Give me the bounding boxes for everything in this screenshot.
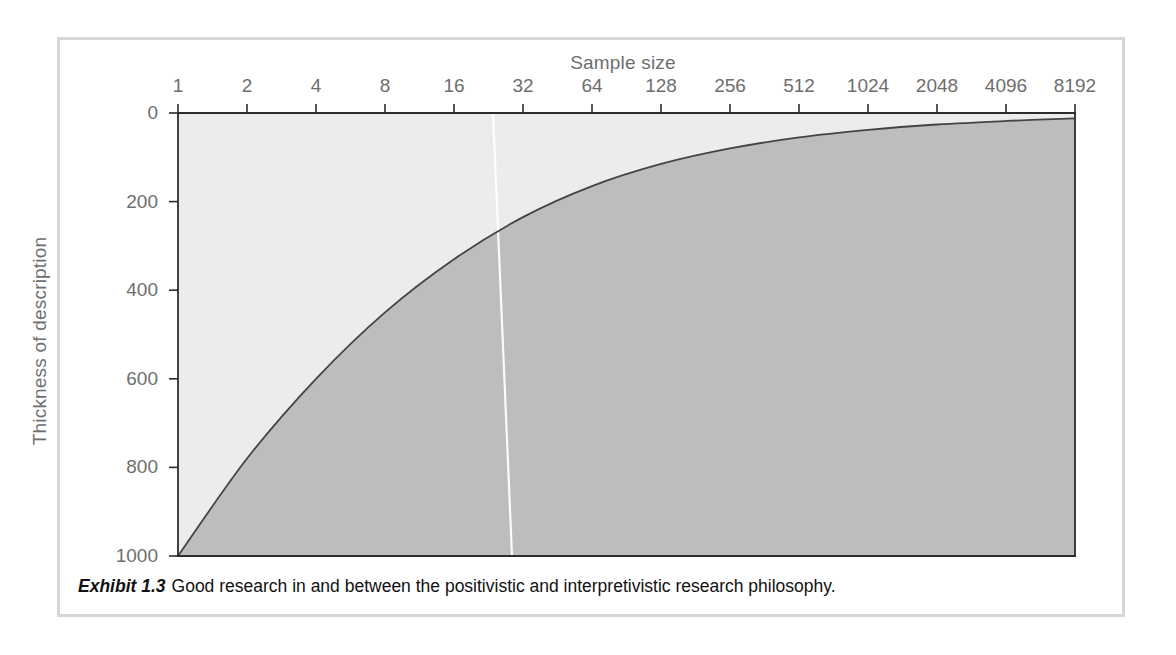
- x-tick-label-256: 256: [714, 75, 746, 97]
- y-tick-label-0: 0: [90, 102, 158, 124]
- x-axis-title: Sample size: [0, 52, 1176, 74]
- exhibit-number: Exhibit 1.3: [78, 576, 166, 596]
- y-tick-label-800: 800: [90, 456, 158, 478]
- figure-frame: [57, 37, 1125, 617]
- caption-text: Good research in and between the positiv…: [172, 576, 836, 596]
- x-tick-label-1024: 1024: [847, 75, 889, 97]
- x-tick-label-16: 16: [443, 75, 464, 97]
- x-tick-label-512: 512: [783, 75, 815, 97]
- x-tick-label-2048: 2048: [916, 75, 958, 97]
- figure-caption: Exhibit 1.3Good research in and between …: [78, 575, 1108, 598]
- x-tick-label-64: 64: [581, 75, 602, 97]
- y-tick-label-1000: 1000: [90, 545, 158, 567]
- y-tick-label-600: 600: [90, 368, 158, 390]
- x-tick-label-2: 2: [242, 75, 253, 97]
- x-tick-label-4: 4: [311, 75, 322, 97]
- y-tick-label-400: 400: [90, 279, 158, 301]
- x-tick-label-128: 128: [645, 75, 677, 97]
- x-axis-title-text: Sample size: [570, 52, 676, 73]
- x-tick-label-4096: 4096: [985, 75, 1027, 97]
- x-tick-label-32: 32: [512, 75, 533, 97]
- x-tick-label-8: 8: [380, 75, 391, 97]
- y-axis-title: Thickness of description: [29, 181, 51, 501]
- x-tick-label-8192: 8192: [1054, 75, 1096, 97]
- x-tick-label-1: 1: [173, 75, 184, 97]
- y-tick-label-200: 200: [90, 191, 158, 213]
